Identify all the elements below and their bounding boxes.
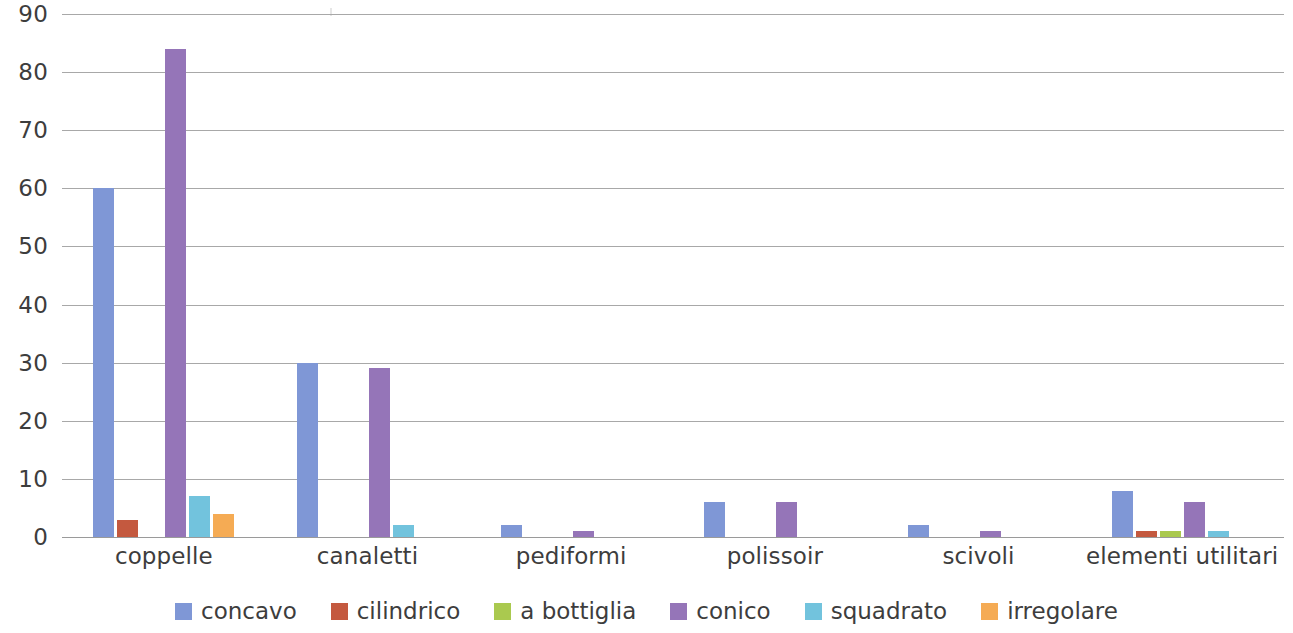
legend-swatch-icon	[805, 603, 822, 620]
legend-item[interactable]: concavo	[175, 600, 297, 623]
legend-label: concavo	[201, 600, 297, 623]
y-tick-label: 50	[18, 235, 48, 258]
bar[interactable]	[1160, 531, 1181, 537]
y-tick-label: 60	[18, 177, 48, 200]
bar[interactable]	[165, 49, 186, 537]
x-axis: coppellecanalettipediformipolissoirscivo…	[62, 545, 1284, 579]
bar-group	[469, 14, 673, 537]
legend-item[interactable]: conico	[670, 600, 770, 623]
legend-item[interactable]: irregolare	[981, 600, 1118, 623]
legend-swatch-icon	[981, 603, 998, 620]
bar[interactable]	[1184, 502, 1205, 537]
legend-label: a bottiglia	[520, 600, 636, 623]
y-tick-label: 40	[18, 293, 48, 316]
bar[interactable]	[189, 496, 210, 537]
bar-group	[62, 14, 266, 537]
legend-swatch-icon	[331, 603, 348, 620]
legend-swatch-icon	[494, 603, 511, 620]
x-tick-label: canaletti	[317, 545, 418, 568]
bar[interactable]	[1112, 491, 1133, 537]
bar[interactable]	[704, 502, 725, 537]
bar[interactable]	[1208, 531, 1229, 537]
bar[interactable]	[393, 525, 414, 537]
legend-item[interactable]: cilindrico	[331, 600, 461, 623]
bar[interactable]	[573, 531, 594, 537]
chart-legend: concavocilindricoa bottigliaconicosquadr…	[0, 600, 1293, 623]
legend-item[interactable]: a bottiglia	[494, 600, 636, 623]
bar-group	[877, 14, 1081, 537]
x-tick-label: coppelle	[115, 545, 213, 568]
bar[interactable]	[213, 514, 234, 537]
bar-group	[673, 14, 877, 537]
bar[interactable]	[369, 368, 390, 537]
y-axis: 0102030405060708090	[0, 0, 62, 537]
bar-group	[1080, 14, 1284, 537]
legend-label: squadrato	[831, 600, 948, 623]
x-tick-label: pediformi	[516, 545, 627, 568]
gridline	[62, 537, 1284, 538]
bar[interactable]	[776, 502, 797, 537]
legend-label: irregolare	[1007, 600, 1118, 623]
bar[interactable]	[93, 188, 114, 537]
y-tick-label: 80	[18, 61, 48, 84]
bar[interactable]	[117, 520, 138, 537]
legend-label: cilindrico	[357, 600, 461, 623]
y-tick-label: 0	[33, 526, 48, 549]
bar[interactable]	[908, 525, 929, 537]
bars-layer	[62, 14, 1284, 537]
x-tick-label: elementi utilitari	[1086, 545, 1278, 568]
bar-group	[266, 14, 470, 537]
y-tick-label: 90	[18, 3, 48, 26]
legend-swatch-icon	[175, 603, 192, 620]
y-tick-label: 70	[18, 119, 48, 142]
plot-area	[62, 14, 1284, 537]
bar[interactable]	[980, 531, 1001, 537]
legend-label: conico	[696, 600, 770, 623]
y-tick-label: 30	[18, 351, 48, 374]
y-tick-label: 20	[18, 409, 48, 432]
legend-item[interactable]: squadrato	[805, 600, 948, 623]
bar[interactable]	[501, 525, 522, 537]
x-tick-label: polissoir	[727, 545, 823, 568]
bar[interactable]	[297, 363, 318, 537]
legend-swatch-icon	[670, 603, 687, 620]
y-tick-label: 10	[18, 467, 48, 490]
bar[interactable]	[1136, 531, 1157, 537]
x-tick-label: scivoli	[942, 545, 1014, 568]
bar-chart: 0102030405060708090 coppellecanalettiped…	[0, 0, 1293, 633]
